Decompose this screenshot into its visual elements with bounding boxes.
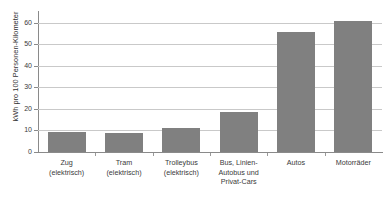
category-label-line: (elektrisch) (153, 168, 210, 178)
gridline (38, 130, 382, 131)
category-label-line: (elektrisch) (38, 168, 95, 178)
y-tick-label-wrap: 10 (0, 126, 32, 134)
category-label: Zug(elektrisch) (38, 158, 95, 177)
y-tick-label: 30 (4, 83, 32, 91)
y-tick-label: 20 (4, 105, 32, 113)
gridline (38, 66, 382, 67)
gridline (38, 109, 382, 110)
category-label: Trolleybus(elektrisch) (153, 158, 210, 177)
bar (105, 133, 143, 152)
y-tick-label-wrap: 60 (0, 19, 32, 27)
y-tick-label: 10 (4, 126, 32, 134)
category-label-line: Autos (267, 158, 324, 168)
category-label-line: (elektrisch) (95, 168, 152, 178)
category-label-line: Tram (95, 158, 152, 168)
y-tick-label-wrap: 0 (0, 148, 32, 156)
category-label-line: Autobus und (210, 168, 267, 178)
category-label-line: Privat-Cars (210, 177, 267, 187)
category-label: Tram(elektrisch) (95, 158, 152, 177)
x-tick-mark (153, 153, 154, 156)
x-tick-mark (210, 153, 211, 156)
bar (220, 112, 258, 152)
bar (162, 128, 200, 152)
y-tick-label: 60 (4, 19, 32, 27)
gridline (38, 23, 382, 24)
category-label-line: Motorräder (325, 158, 382, 168)
gridline (38, 44, 382, 45)
y-tick-label: 0 (4, 148, 32, 156)
y-tick-label-wrap: 20 (0, 105, 32, 113)
category-label-line: Trolleybus (153, 158, 210, 168)
bar (277, 32, 315, 152)
bar-chart-figure: kWh pro 100 Personen-Kilometer 010203040… (0, 0, 386, 201)
category-label: Motorräder (325, 158, 382, 168)
gridline (38, 87, 382, 88)
category-label-line: Bus, Linien- (210, 158, 267, 168)
category-label: Bus, Linien-Autobus undPrivat-Cars (210, 158, 267, 187)
x-tick-mark (325, 153, 326, 156)
plot-area (38, 12, 382, 152)
y-tick-label-wrap: 40 (0, 62, 32, 70)
y-tick-label: 50 (4, 40, 32, 48)
category-label: Autos (267, 158, 324, 168)
bar (48, 132, 86, 152)
y-tick-label-wrap: 50 (0, 40, 32, 48)
bar (334, 21, 372, 152)
category-label-line: Zug (38, 158, 95, 168)
y-tick-label: 40 (4, 62, 32, 70)
x-tick-mark (95, 153, 96, 156)
y-tick-label-wrap: 30 (0, 83, 32, 91)
x-tick-mark (267, 153, 268, 156)
